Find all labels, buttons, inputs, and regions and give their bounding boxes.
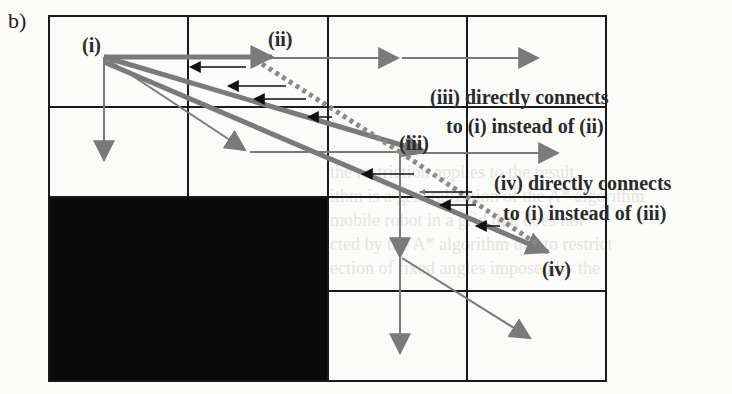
node-label-iv: (iv)	[542, 258, 571, 281]
node-label-iii: (iii)	[399, 132, 429, 155]
node-label-i: (i)	[82, 34, 101, 57]
theta-star-diagram: (i) (ii) (iii) (iv) (iii) directly conne…	[0, 0, 732, 394]
annotation-iv-line2: to (i) instead of (iii)	[503, 202, 666, 225]
node-label-ii: (ii)	[268, 28, 292, 51]
annotation-iii-line1: (iii) directly connects	[430, 86, 609, 109]
annotation-iv-line1: (iv) directly connects	[494, 172, 672, 195]
annotation-iii-line2: to (i) instead of (ii)	[446, 115, 604, 138]
obstacle-block	[49, 197, 328, 381]
